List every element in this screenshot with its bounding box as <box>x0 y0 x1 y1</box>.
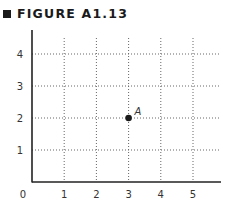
point-label-A: A <box>134 106 142 117</box>
axes <box>32 30 221 183</box>
x-tick-label-1: 1 <box>61 189 67 200</box>
origin-label: 0 <box>20 189 26 200</box>
x-tick-label-3: 3 <box>125 189 131 200</box>
x-tick-label-2: 2 <box>93 189 99 200</box>
x-tick-label-5: 5 <box>190 189 196 200</box>
x-tick-label-4: 4 <box>158 189 164 200</box>
y-tick-label-4: 4 <box>17 49 23 60</box>
y-tick-label-1: 1 <box>17 145 23 156</box>
point-A <box>125 115 132 122</box>
chart-plot: 1234512340 A <box>0 0 234 209</box>
data-points: A <box>125 106 141 121</box>
y-tick-label-2: 2 <box>17 113 23 124</box>
tick-labels: 1234512340 <box>17 49 196 201</box>
grid-lines <box>32 38 220 182</box>
y-tick-label-3: 3 <box>17 81 23 92</box>
